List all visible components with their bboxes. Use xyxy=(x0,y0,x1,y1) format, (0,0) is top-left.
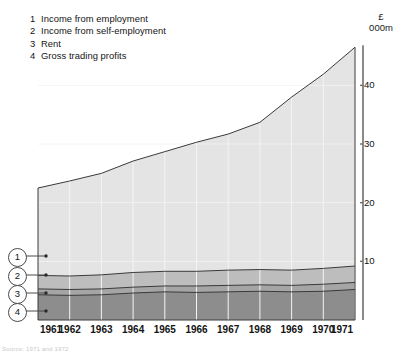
callout-marker-1: 1 xyxy=(8,248,27,267)
x-axis-tick-1971: 1971 xyxy=(331,324,353,336)
x-axis-tick-1962: 1962 xyxy=(59,324,81,336)
callout-marker-2: 2 xyxy=(8,267,27,286)
y-axis-tick-20: 20 xyxy=(364,198,375,208)
x-axis-tick-1964: 1964 xyxy=(122,324,144,336)
plot-area xyxy=(0,0,402,354)
callout-dot-2 xyxy=(44,273,47,276)
callout-marker-4: 4 xyxy=(8,303,27,322)
callout-dot-4 xyxy=(44,309,47,312)
y-axis-tick-10: 10 xyxy=(364,256,375,266)
callout-dot-3 xyxy=(44,291,47,294)
x-axis-tick-1965: 1965 xyxy=(154,324,176,336)
source-caption: Source: 1971 and 1972 xyxy=(2,346,69,353)
x-axis-tick-1963: 1963 xyxy=(90,324,112,336)
callout-marker-3: 3 xyxy=(8,285,27,304)
x-axis-tick-1966: 1966 xyxy=(185,324,207,336)
x-axis-tick-1968: 1968 xyxy=(249,324,271,336)
x-axis-tick-1969: 1969 xyxy=(280,324,302,336)
stacked-area-chart: 1 Income from employment 2 Income from s… xyxy=(0,0,402,354)
y-axis-tick-30: 30 xyxy=(364,139,375,149)
x-axis-tick-1967: 1967 xyxy=(217,324,239,336)
callout-dot-1 xyxy=(44,254,47,257)
y-axis-tick-40: 40 xyxy=(364,80,375,90)
